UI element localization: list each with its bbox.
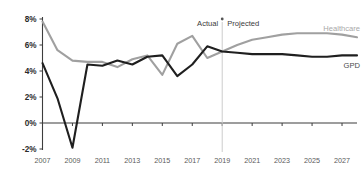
y-tick-label: -2% — [22, 145, 37, 154]
x-tick-labels: 2007200920112013201520172019202120232025… — [35, 156, 351, 165]
x-tick-label: 2009 — [64, 156, 80, 165]
series-label-gpd: GPD — [344, 61, 361, 70]
annotation-projected: Projected — [227, 19, 259, 28]
x-tick-label: 2011 — [95, 156, 110, 165]
x-tick-label: 2019 — [214, 156, 230, 165]
x-tick-label: 2023 — [274, 156, 290, 165]
series-label-group: Healthcare GPD — [323, 24, 360, 70]
y-tick-labels: 8%6%4%2%0%-2% — [22, 15, 37, 154]
forecast-divider-dot — [221, 18, 224, 21]
y-tick-label: 2% — [25, 93, 38, 102]
annotation-group: Actual Projected — [197, 19, 259, 28]
line-chart: 8%6%4%2%0%-2% 20072009201120132015201720… — [0, 0, 364, 175]
y-tick-label: 6% — [25, 41, 38, 50]
x-tick-label: 2017 — [184, 156, 200, 165]
series-label-healthcare: Healthcare — [323, 24, 360, 33]
x-tick-label: 2013 — [124, 156, 140, 165]
annotation-actual: Actual — [197, 19, 218, 28]
x-tick-label: 2015 — [154, 156, 170, 165]
x-tick-label: 2007 — [35, 156, 51, 165]
y-tick-label: 0% — [25, 119, 38, 128]
x-tick-label: 2027 — [334, 156, 350, 165]
x-tick-label: 2025 — [304, 156, 320, 165]
chart-container: 8%6%4%2%0%-2% 20072009201120132015201720… — [0, 0, 364, 175]
x-axis-group: 2007200920112013201520172019202120232025… — [35, 123, 358, 165]
x-tick-label: 2021 — [244, 156, 260, 165]
series-group — [43, 22, 358, 148]
y-axis-group: 8%6%4%2%0%-2% — [22, 15, 43, 154]
forecast-divider-group — [221, 18, 224, 152]
series-line-healthcare — [43, 22, 358, 75]
y-tick-label: 8% — [25, 15, 38, 24]
y-tick-label: 4% — [25, 67, 38, 76]
